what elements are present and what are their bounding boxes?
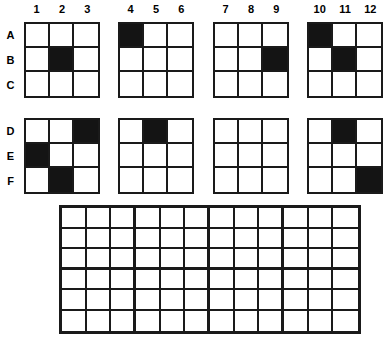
answer-cell-r6-c5[interactable] [161, 311, 186, 332]
answer-cell-r5-c7[interactable] [210, 290, 235, 311]
answer-cell-r4-c12[interactable] [333, 270, 358, 291]
answer-cell-r2-c12[interactable] [333, 229, 358, 250]
cell-D1[interactable] [26, 120, 50, 144]
cell-B9[interactable] [263, 48, 287, 72]
cell-F8[interactable] [239, 168, 263, 192]
cell-E6[interactable] [168, 144, 192, 168]
answer-cell-r1-c7[interactable] [210, 208, 235, 229]
cell-B12[interactable] [357, 48, 381, 72]
answer-cell-r6-c3[interactable] [111, 311, 136, 332]
cell-E5[interactable] [144, 144, 168, 168]
answer-cell-r1-c9[interactable] [259, 208, 284, 229]
answer-cell-r6-c6[interactable] [185, 311, 210, 332]
answer-cell-r4-c5[interactable] [161, 270, 186, 291]
cell-C2[interactable] [50, 72, 74, 96]
cell-C11[interactable] [333, 72, 357, 96]
cell-E1[interactable] [26, 144, 50, 168]
cell-D10[interactable] [309, 120, 333, 144]
answer-cell-r1-c8[interactable] [235, 208, 260, 229]
answer-cell-r3-c5[interactable] [161, 249, 186, 270]
cell-E11[interactable] [333, 144, 357, 168]
cell-D3[interactable] [74, 120, 98, 144]
cell-F10[interactable] [309, 168, 333, 192]
cell-C1[interactable] [26, 72, 50, 96]
cell-A9[interactable] [263, 24, 287, 48]
cell-B5[interactable] [144, 48, 168, 72]
answer-cell-r3-c11[interactable] [309, 249, 334, 270]
cell-F9[interactable] [263, 168, 287, 192]
cell-D11[interactable] [333, 120, 357, 144]
cell-D8[interactable] [239, 120, 263, 144]
cell-B6[interactable] [168, 48, 192, 72]
answer-cell-r2-c6[interactable] [185, 229, 210, 250]
cell-F1[interactable] [26, 168, 50, 192]
answer-cell-r6-c8[interactable] [235, 311, 260, 332]
answer-cell-r5-c6[interactable] [185, 290, 210, 311]
grid-8[interactable] [307, 118, 383, 194]
cell-B3[interactable] [74, 48, 98, 72]
cell-B2[interactable] [50, 48, 74, 72]
cell-F4[interactable] [120, 168, 144, 192]
answer-cell-r2-c10[interactable] [284, 229, 309, 250]
cell-F2[interactable] [50, 168, 74, 192]
answer-cell-r5-c12[interactable] [333, 290, 358, 311]
answer-cell-r3-c12[interactable] [333, 249, 358, 270]
answer-cell-r3-c7[interactable] [210, 249, 235, 270]
cell-A11[interactable] [333, 24, 357, 48]
answer-cell-r1-c4[interactable] [136, 208, 161, 229]
answer-cell-r3-c6[interactable] [185, 249, 210, 270]
answer-cell-r2-c4[interactable] [136, 229, 161, 250]
answer-cell-r3-c2[interactable] [87, 249, 112, 270]
answer-cell-r5-c4[interactable] [136, 290, 161, 311]
answer-cell-r3-c9[interactable] [259, 249, 284, 270]
cell-A3[interactable] [74, 24, 98, 48]
cell-D12[interactable] [357, 120, 381, 144]
answer-cell-r3-c8[interactable] [235, 249, 260, 270]
answer-cell-r2-c5[interactable] [161, 229, 186, 250]
answer-cell-r3-c10[interactable] [284, 249, 309, 270]
cell-A8[interactable] [239, 24, 263, 48]
answer-cell-r3-c4[interactable] [136, 249, 161, 270]
cell-F3[interactable] [74, 168, 98, 192]
answer-cell-r1-c11[interactable] [309, 208, 334, 229]
answer-cell-r6-c11[interactable] [309, 311, 334, 332]
cell-C12[interactable] [357, 72, 381, 96]
cell-C10[interactable] [309, 72, 333, 96]
cell-D9[interactable] [263, 120, 287, 144]
answer-cell-r6-c9[interactable] [259, 311, 284, 332]
answer-cell-r4-c2[interactable] [87, 270, 112, 291]
cell-C5[interactable] [144, 72, 168, 96]
answer-cell-r1-c5[interactable] [161, 208, 186, 229]
cell-E10[interactable] [309, 144, 333, 168]
cell-F11[interactable] [333, 168, 357, 192]
answer-cell-r6-c7[interactable] [210, 311, 235, 332]
answer-cell-r5-c8[interactable] [235, 290, 260, 311]
cell-C7[interactable] [215, 72, 239, 96]
answer-cell-r5-c3[interactable] [111, 290, 136, 311]
answer-cell-r6-c10[interactable] [284, 311, 309, 332]
answer-cell-r5-c2[interactable] [87, 290, 112, 311]
answer-cell-r4-c10[interactable] [284, 270, 309, 291]
answer-cell-r6-c12[interactable] [333, 311, 358, 332]
cell-B1[interactable] [26, 48, 50, 72]
cell-B7[interactable] [215, 48, 239, 72]
answer-cell-r5-c5[interactable] [161, 290, 186, 311]
answer-cell-r4-c9[interactable] [259, 270, 284, 291]
answer-cell-r2-c7[interactable] [210, 229, 235, 250]
cell-A4[interactable] [120, 24, 144, 48]
answer-cell-r6-c4[interactable] [136, 311, 161, 332]
grid-3[interactable] [213, 22, 289, 98]
answer-cell-r2-c1[interactable] [62, 229, 87, 250]
cell-A1[interactable] [26, 24, 50, 48]
grid-7[interactable] [213, 118, 289, 194]
answer-cell-r5-c11[interactable] [309, 290, 334, 311]
cell-A10[interactable] [309, 24, 333, 48]
answer-cell-r3-c3[interactable] [111, 249, 136, 270]
cell-C9[interactable] [263, 72, 287, 96]
answer-cell-r4-c3[interactable] [111, 270, 136, 291]
cell-E9[interactable] [263, 144, 287, 168]
cell-B4[interactable] [120, 48, 144, 72]
answer-cell-r1-c1[interactable] [62, 208, 87, 229]
cell-E8[interactable] [239, 144, 263, 168]
cell-F12[interactable] [357, 168, 381, 192]
